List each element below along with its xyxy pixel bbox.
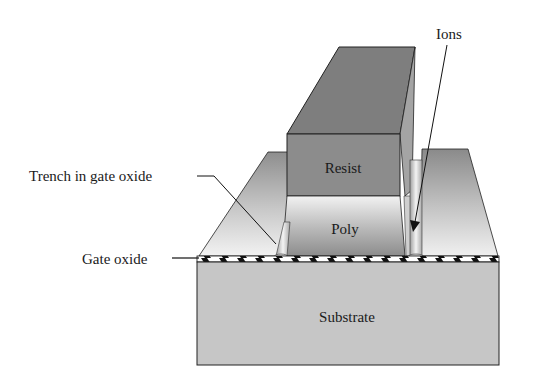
platform-right — [420, 149, 498, 256]
label-gate-oxide: Gate oxide — [82, 251, 148, 267]
label-resist: Resist — [325, 160, 363, 176]
gate-oxide-trench-diagram: Ions Trench in gate oxide Gate oxide Res… — [0, 0, 549, 387]
label-substrate: Substrate — [319, 309, 375, 325]
resist-top-face — [287, 47, 415, 134]
label-ions: Ions — [436, 26, 462, 42]
ion-pillar — [410, 160, 422, 256]
label-poly: Poly — [331, 221, 359, 237]
gate-oxide-layer — [197, 256, 499, 262]
label-trench: Trench in gate oxide — [29, 168, 153, 184]
